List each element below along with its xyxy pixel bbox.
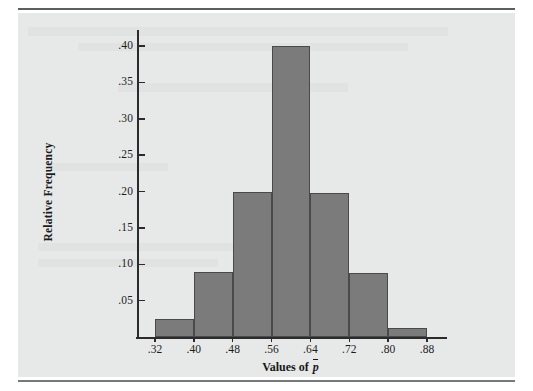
x-axis-line [136,337,447,339]
x-tick-label: .40 [174,343,214,355]
x-tick-mark [426,337,428,342]
histogram-bar [272,46,311,337]
x-tick-mark [271,337,273,342]
histogram-bar [310,193,349,337]
histogram-bar [388,328,427,337]
x-tick-label: .56 [252,343,292,355]
x-tick-label: .72 [329,343,369,355]
y-tick-label: .35 [99,75,133,87]
x-tick-mark [349,337,351,342]
y-tick-mark [138,300,145,302]
x-tick-label: .80 [368,343,408,355]
x-tick-label: .48 [213,343,253,355]
y-tick-mark [138,264,145,266]
x-axis-title-text: Values of [262,360,309,374]
x-tick-mark [193,337,195,342]
x-tick-label: .64 [290,343,330,355]
y-tick-mark [138,154,145,156]
y-tick-mark [138,227,145,229]
x-tick-mark [232,337,234,342]
y-tick-mark [138,191,145,193]
y-axis-line [137,30,139,338]
histogram-bar [349,273,388,337]
y-tick-mark [138,45,145,47]
y-tick-mark [138,82,145,84]
histogram-figure: Relative Frequency .05.10.15.20.25.30.35… [0,0,533,391]
y-tick-label: .10 [99,257,133,269]
y-tick-label: .30 [99,112,133,124]
y-tick-mark [138,118,145,120]
x-tick-label: .32 [135,343,175,355]
x-axis-title: Values of p [155,360,427,375]
y-tick-label: .05 [99,294,133,306]
y-tick-label: .15 [99,221,133,233]
p-bar-symbol: p [312,360,320,374]
y-tick-label: .20 [99,185,133,197]
y-tick-label: .25 [99,148,133,160]
plot-area: Relative Frequency .05.10.15.20.25.30.35… [0,0,533,391]
y-axis-title: Relative Frequency [42,117,54,267]
x-tick-mark [387,337,389,342]
x-tick-mark [310,337,312,342]
x-tick-label: .88 [407,343,447,355]
histogram-bar [155,319,194,337]
histogram-bar [194,272,233,337]
y-tick-label: .40 [99,39,133,51]
histogram-bar [233,192,272,338]
x-tick-mark [154,337,156,342]
